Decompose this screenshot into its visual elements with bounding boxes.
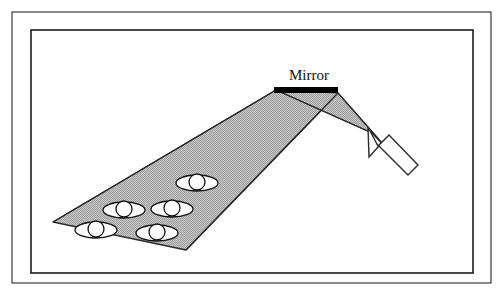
eye-3-iris — [116, 201, 132, 217]
eye-2-iris — [164, 200, 180, 216]
figure-container: Mirror — [0, 0, 503, 300]
mirror-bar — [274, 87, 338, 93]
eye-4-iris — [149, 224, 165, 240]
eye-1-iris — [189, 174, 205, 190]
optics-ray-diagram: Mirror — [0, 0, 503, 300]
eye-5-iris — [88, 221, 104, 237]
mirror-label: Mirror — [289, 67, 329, 83]
